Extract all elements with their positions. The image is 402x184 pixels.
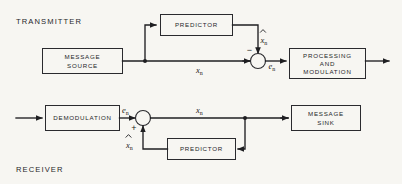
label-e-n-receiver-sub: n — [126, 110, 129, 116]
summer-transmitter — [251, 54, 266, 69]
wire-predictor-to-summer — [233, 25, 259, 54]
summer-receiver-plus-sign: + — [131, 123, 136, 133]
block-message-sink-label-1: MESSAGE — [308, 110, 344, 117]
label-x-hat-n-receiver-sub: n — [130, 145, 133, 151]
wire-tap-to-predictor — [145, 25, 156, 61]
block-predictor-transmitter-label: PREDICTOR — [175, 21, 218, 28]
wire-predictor-to-summer-receiver — [143, 126, 168, 149]
receiver-title: RECEIVER — [16, 165, 64, 174]
label-x-n-transmitter: xn — [195, 65, 203, 76]
label-x-n-transmitter-sub: n — [200, 70, 203, 76]
label-x-hat-n-transmitter-sub: n — [264, 40, 267, 46]
label-e-n-transmitter-sub: n — [272, 66, 275, 72]
summer-transmitter-minus-sign: − — [247, 45, 252, 55]
wire-tap-to-predictor-receiver — [238, 118, 245, 149]
label-x-hat-n-transmitter: xn — [260, 35, 268, 46]
block-processing-label-2: AND — [320, 60, 335, 67]
transmitter-title: TRANSMITTER — [16, 17, 82, 26]
block-predictor-receiver-label: PREDICTOR — [180, 145, 223, 152]
block-demodulation-label: DEMODULATION — [53, 114, 111, 121]
diagram-canvas: TRANSMITTER MESSAGE SOURCE PREDICTOR PRO… — [0, 0, 402, 184]
block-message-source-label-1: MESSAGE — [65, 53, 101, 60]
label-x-hat-n-receiver: xn — [125, 140, 133, 151]
block-processing-label-1: PROCESSING — [303, 52, 352, 59]
summer-receiver — [136, 111, 151, 126]
hat-accent-receiver — [126, 135, 131, 138]
hat-accent-transmitter — [261, 30, 266, 33]
block-message-sink-label-2: SINK — [317, 119, 335, 126]
label-e-n-transmitter: en — [269, 61, 276, 72]
label-x-n-receiver-sub: n — [200, 110, 203, 116]
label-x-n-receiver: xn — [195, 105, 203, 116]
block-message-source-label-2: SOURCE — [67, 62, 98, 69]
label-e-n-receiver: en — [122, 105, 129, 116]
block-processing-label-3: MODULATION — [303, 68, 351, 75]
